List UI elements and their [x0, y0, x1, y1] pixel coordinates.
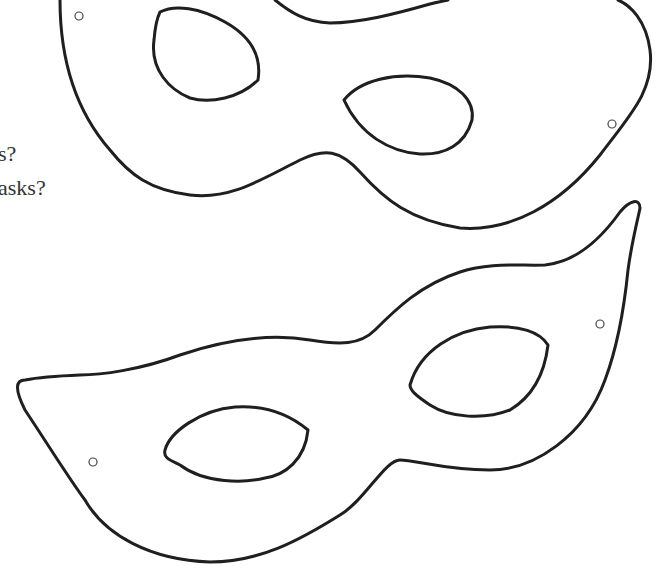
lower-mask-left-eye [165, 407, 308, 481]
mask-template-illustration [0, 0, 664, 569]
lower-mask-string-hole-right [596, 320, 604, 328]
upper-mask-right-eye [344, 76, 472, 154]
upper-mask-top-edge [275, 0, 448, 23]
upper-mask-string-hole-right [608, 120, 616, 128]
lower-mask [18, 202, 641, 562]
upper-mask-string-hole-left [75, 12, 83, 20]
lower-mask-string-hole-left [89, 458, 97, 466]
lower-mask-outline [18, 202, 641, 562]
upper-mask [60, 0, 651, 228]
lower-mask-right-eye [410, 327, 548, 417]
upper-mask-left-eye [153, 8, 258, 100]
